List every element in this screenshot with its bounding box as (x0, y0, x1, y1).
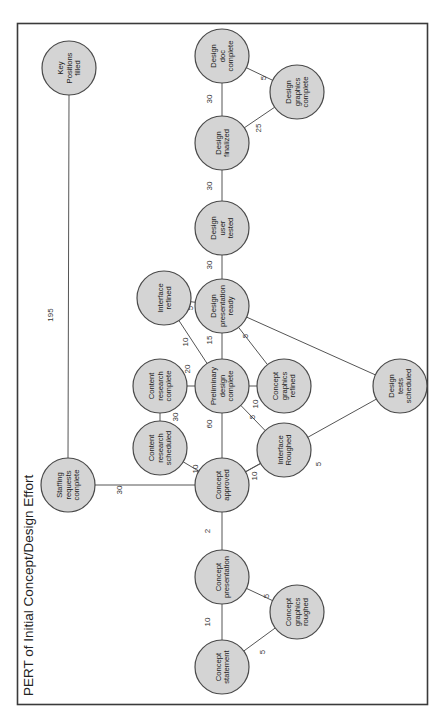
node-label: Conceptstatement (214, 649, 232, 683)
edge-duration-label: 60 (205, 419, 214, 428)
edge-duration-label: 5 (259, 75, 268, 80)
node-design-user-tested: Designusertested (195, 201, 249, 255)
edge-duration-label: 10 (203, 617, 212, 626)
edge-duration-label: 25 (254, 123, 263, 132)
node-design-finalized: Designfinalized (195, 116, 249, 170)
node-design-graphics-complete: Designgraphicscomplete (270, 65, 324, 119)
edge-duration-label: 30 (205, 94, 214, 103)
edge-duration-label: 10 (250, 471, 259, 480)
edge-duration-label: 10 (181, 337, 190, 346)
edge-duration-label: 195 (46, 308, 55, 322)
node-label: InterfaceRoughed (276, 435, 294, 466)
node-label: Contentresearchscheduled (147, 431, 173, 466)
node-design-doc-complete: Designdoccomplete (195, 29, 249, 83)
node-label: Staffingrequestscomplete (55, 470, 81, 501)
edge-duration-label: 5 (258, 649, 267, 654)
nodes-layer: ConceptstatementConceptpresentationConce… (41, 29, 427, 694)
node-label: Interfacerefined (156, 283, 174, 313)
diagram-title: PERT of Initial Concept/Design Effort (21, 474, 36, 696)
node-interface-refined: Interfacerefined (137, 271, 191, 325)
node-label: Conceptapproved (214, 469, 232, 501)
edge-duration-label: 30 (115, 485, 124, 494)
edge-interface_refined-to-design_presentation_ready (191, 302, 196, 303)
edge-duration-label: 30 (205, 181, 214, 190)
node-preliminary-design-complete: Preliminarydesigncomplete (195, 359, 249, 413)
node-concept-statement: Conceptstatement (195, 640, 249, 694)
node-label: Contentresearchcomplete (147, 371, 173, 402)
node-staffing-requests-complete: Staffingrequestscomplete (41, 458, 95, 512)
edge-duration-label: 30 (205, 260, 214, 269)
edge-concept_statement-to-concept_graphics_roughed (244, 628, 275, 651)
node-label: Designfinalized (214, 129, 232, 157)
edge-duration-label: 2 (203, 528, 212, 533)
pert-diagram: PERT of Initial Concept/Design Effort 10… (0, 0, 435, 716)
node-interface-roughed: InterfaceRoughed (257, 423, 311, 477)
edge-duration-label: 20 (183, 364, 192, 373)
node-content-research-complete: Contentresearchcomplete (133, 359, 187, 413)
node-content-research-scheduled: Contentresearchscheduled (133, 421, 187, 475)
edge-duration-label: 5 (248, 414, 257, 419)
edge-duration-label: 5 (241, 333, 250, 338)
node-concept-approved: Conceptapproved (195, 458, 249, 512)
edge-duration-label: 15 (205, 335, 214, 344)
edge-duration-label: 30 (171, 412, 180, 421)
node-label: Designgraphicscomplete (284, 77, 310, 108)
node-concept-presentation: Conceptpresentation (195, 550, 249, 604)
node-design-presentation-ready: Designpresentationready (195, 279, 249, 333)
node-label: Conceptgraphicsrefined (271, 371, 297, 400)
edge-duration-label: 5 (314, 461, 323, 466)
node-design-tests-scheduled: Designtestsscheduled (373, 359, 427, 413)
edge-duration-label: 5 (262, 593, 271, 598)
node-key-positions-filled: KeyPositionsfilled (42, 41, 96, 95)
edge-concept_graphics_refined-to-design_presentation_ready (239, 327, 268, 364)
node-concept-graphics-roughed: Conceptgraphicsroughed (270, 585, 324, 639)
node-label: Conceptgraphicsroughed (284, 597, 310, 626)
edge-staffing_requests_complete-to-key_positions_filled (68, 95, 69, 458)
edge-duration-label: 10 (251, 399, 260, 408)
node-concept-graphics-refined: Conceptgraphicsrefined (257, 359, 311, 413)
